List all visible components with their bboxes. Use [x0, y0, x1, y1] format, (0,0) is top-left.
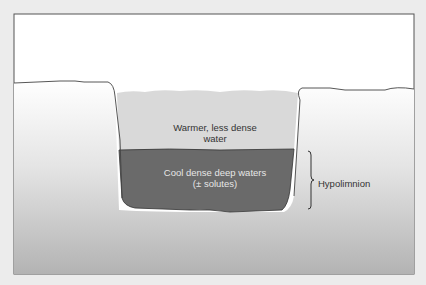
upper-layer-label-line1: Warmer, less dense [150, 122, 280, 133]
lower-layer-label-line1: Cool dense deep waters [140, 167, 290, 178]
hypolimnion-label: Hypolimnion [318, 178, 398, 189]
lower-layer-label-line2: (± solutes) [140, 178, 290, 189]
upper-layer-label: Warmer, less dense water [150, 122, 280, 144]
lower-layer-label: Cool dense deep waters (± solutes) [140, 167, 290, 189]
upper-layer-label-line2: water [150, 133, 280, 144]
